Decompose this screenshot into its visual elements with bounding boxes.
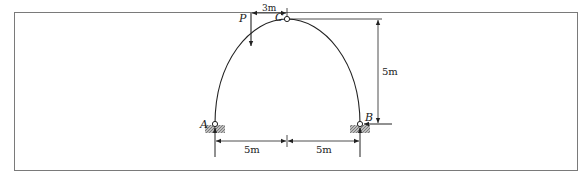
- support-b-label: B: [364, 111, 373, 124]
- hinge-b: [357, 121, 362, 126]
- arch-member: [215, 19, 360, 124]
- dim-height-label: 5m: [382, 66, 398, 77]
- load-p-label: P: [238, 12, 247, 25]
- dim-span-left-label: 5m: [244, 144, 260, 155]
- hinge-a: [212, 121, 217, 126]
- hinge-c-label: C: [275, 11, 284, 24]
- figure-frame: [15, 13, 578, 171]
- three-hinged-arch-diagram: P 3m C 5m A B 5m 5m: [0, 0, 587, 176]
- dim-span-right-label: 5m: [316, 144, 332, 155]
- support-a-label: A: [199, 118, 208, 131]
- hinge-c: [284, 16, 289, 21]
